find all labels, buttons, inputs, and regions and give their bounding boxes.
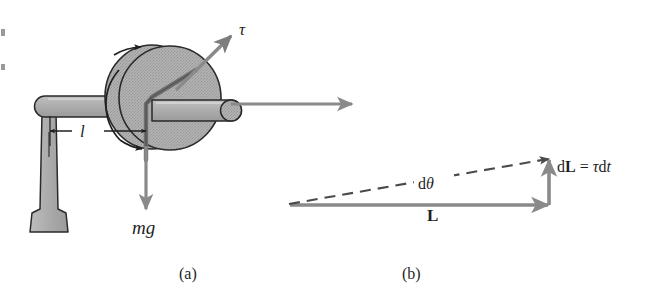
- caption-panel-a: (a): [179, 266, 197, 282]
- panel-a-group: [30, 36, 352, 232]
- scan-artifact-lower: [1, 64, 5, 70]
- angle-increment-label: dθ: [418, 176, 434, 192]
- angular-momentum-label: L: [427, 207, 438, 224]
- torque-label: τ: [239, 21, 245, 38]
- dL-d: d: [557, 158, 565, 175]
- dtheta-theta: θ: [426, 175, 434, 192]
- momentum-increment-label: dL=τdt: [557, 159, 611, 175]
- dL-dt-t: t: [606, 158, 610, 175]
- caption-panel-b: (b): [402, 266, 421, 282]
- scan-artifact-upper: [1, 29, 5, 36]
- dL-L: L: [565, 158, 576, 175]
- lever-arm-label-mask: [72, 122, 104, 140]
- dL-equals: =: [580, 158, 589, 175]
- dtheta-d: d: [418, 175, 426, 192]
- figure-canvas: [0, 0, 657, 308]
- lever-arm-label: l: [80, 123, 85, 140]
- physics-figure: τ l mg dθ L dL=τdt (a) (b): [0, 0, 657, 308]
- weight-label: mg: [132, 218, 155, 237]
- axle-right: [152, 100, 242, 121]
